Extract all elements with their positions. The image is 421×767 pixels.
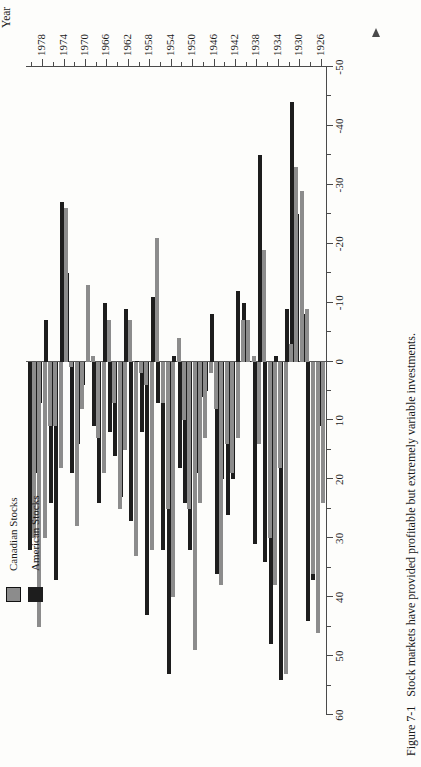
year-tick bbox=[192, 59, 193, 67]
bar-american-1965 bbox=[108, 362, 112, 433]
bar-canadian-1942 bbox=[236, 362, 240, 439]
figure-caption-text: Stock markets have provided profitable b… bbox=[404, 333, 418, 697]
bar-canadian-1945 bbox=[219, 362, 223, 586]
year-tick bbox=[53, 62, 54, 67]
year-tick bbox=[235, 59, 236, 67]
value-tick bbox=[326, 361, 333, 362]
bar-canadian-1965 bbox=[112, 362, 116, 403]
year-tick bbox=[246, 62, 247, 67]
bar-canadian-1938 bbox=[257, 362, 261, 444]
value-tick-label: 20 bbox=[334, 474, 345, 485]
bar-canadian-1946 bbox=[214, 362, 218, 409]
year-tick-label: 1958 bbox=[143, 34, 154, 56]
bar-canadian-1970 bbox=[86, 285, 90, 362]
year-tick bbox=[96, 62, 97, 67]
year-tick bbox=[299, 59, 300, 67]
bar-american-1956 bbox=[156, 362, 160, 403]
bar-canadian-1974 bbox=[64, 208, 68, 361]
year-tick bbox=[106, 59, 107, 67]
value-tick bbox=[326, 655, 333, 656]
bar-canadian-1977 bbox=[48, 362, 52, 427]
bar-canadian-1929 bbox=[305, 309, 309, 362]
bar-canadian-1934 bbox=[278, 362, 282, 468]
value-tick bbox=[326, 449, 331, 450]
year-tick-label: 1970 bbox=[79, 34, 90, 56]
value-tick bbox=[326, 537, 333, 538]
figure-caption: Figure 7-1Stock markets have provided pr… bbox=[404, 333, 419, 756]
year-tick bbox=[31, 62, 32, 67]
bar-canadian-1960 bbox=[139, 362, 143, 374]
year-tick bbox=[181, 62, 182, 67]
year-tick bbox=[42, 59, 43, 67]
bar-canadian-1973 bbox=[69, 362, 73, 368]
year-tick bbox=[74, 62, 75, 67]
bar-canadian-1927 bbox=[316, 362, 320, 633]
bar-canadian-1955 bbox=[166, 362, 170, 509]
legend: Canadian Stocks American Stocks bbox=[6, 452, 50, 602]
value-tick bbox=[326, 478, 333, 479]
year-tick-label: 1946 bbox=[208, 34, 219, 56]
value-tick-label: 10 bbox=[334, 415, 345, 426]
bar-american-1977 bbox=[44, 320, 48, 361]
value-tick-label: 30 bbox=[334, 533, 345, 544]
value-tick bbox=[326, 508, 331, 509]
year-tick bbox=[85, 59, 86, 67]
value-axis-line bbox=[326, 67, 327, 715]
value-tick bbox=[326, 154, 331, 155]
bar-canadian-1932 bbox=[289, 344, 293, 362]
value-tick-label: -20 bbox=[334, 236, 345, 251]
bar-canadian-1943 bbox=[230, 362, 234, 474]
bar-canadian-1950 bbox=[193, 362, 197, 651]
bar-american-1962 bbox=[124, 309, 128, 362]
year-tick bbox=[64, 59, 65, 67]
value-tick bbox=[326, 184, 333, 185]
bar-american-1952 bbox=[178, 362, 182, 468]
value-tick bbox=[326, 714, 333, 715]
bar-canadian-1961 bbox=[134, 362, 138, 556]
bar-canadian-1928 bbox=[311, 362, 315, 574]
year-tick bbox=[310, 62, 311, 67]
bar-canadian-1947 bbox=[209, 362, 213, 374]
bar-american-1961 bbox=[129, 362, 133, 521]
bar-canadian-1971 bbox=[80, 362, 84, 409]
value-tick bbox=[326, 626, 331, 627]
value-tick-label: -10 bbox=[334, 295, 345, 310]
bar-canadian-1967 bbox=[102, 362, 106, 474]
value-tick-label: -50 bbox=[334, 59, 345, 74]
bar-american-1936 bbox=[263, 362, 267, 562]
bar-american-1938 bbox=[253, 362, 257, 545]
year-tick bbox=[256, 59, 257, 67]
bar-canadian-1964 bbox=[118, 362, 122, 509]
bar-canadian-1953 bbox=[177, 338, 181, 362]
value-tick bbox=[326, 125, 333, 126]
year-tick bbox=[214, 59, 215, 67]
figure-number: Figure 7-1 bbox=[404, 706, 418, 756]
year-tick-label: 1938 bbox=[250, 34, 261, 56]
value-tick bbox=[326, 213, 331, 214]
value-tick bbox=[326, 243, 333, 244]
bar-american-1928 bbox=[306, 362, 310, 621]
bar-canadian-1959 bbox=[144, 362, 148, 386]
bar-american-1946 bbox=[210, 314, 214, 361]
bar-canadian-1972 bbox=[75, 362, 79, 527]
bar-canadian-1969 bbox=[91, 356, 95, 362]
year-tick-label: 1934 bbox=[272, 34, 283, 56]
year-tick-label: 1978 bbox=[36, 34, 47, 56]
value-tick bbox=[326, 596, 333, 597]
value-tick bbox=[326, 66, 333, 67]
value-tick-label: 40 bbox=[334, 591, 345, 602]
bar-canadian-1935 bbox=[273, 362, 277, 586]
year-tick-label: 1974 bbox=[58, 34, 69, 56]
bar-american-1958 bbox=[145, 362, 149, 615]
bar-american-1937 bbox=[258, 155, 262, 361]
bar-american-1931 bbox=[290, 102, 294, 361]
legend-label-american: American Stocks bbox=[29, 496, 41, 571]
value-tick bbox=[326, 419, 333, 420]
value-tick bbox=[326, 95, 331, 96]
year-tick-label: 1962 bbox=[122, 34, 133, 56]
bar-canadian-1944 bbox=[225, 362, 229, 444]
bar-american-1932 bbox=[285, 309, 289, 362]
year-tick bbox=[128, 59, 129, 67]
bar-canadian-1951 bbox=[187, 362, 191, 509]
value-tick bbox=[326, 272, 331, 273]
